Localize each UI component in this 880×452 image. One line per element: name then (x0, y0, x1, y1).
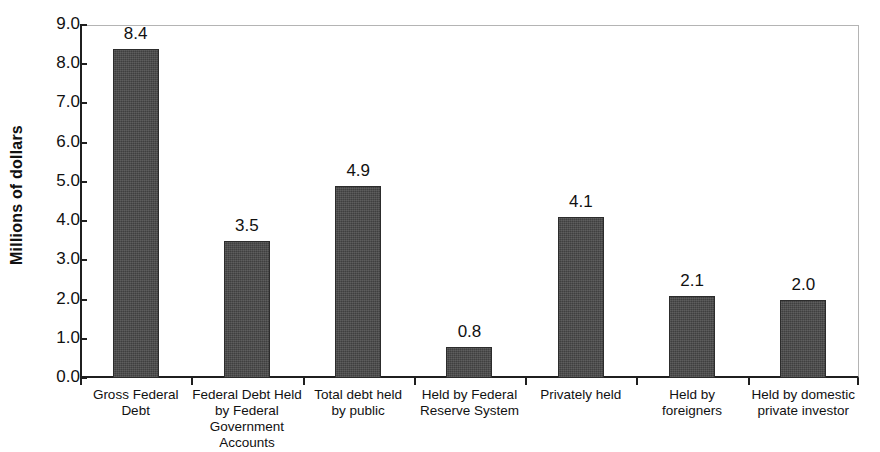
x-axis-tick-mark (191, 378, 193, 385)
x-axis-labels: Gross FederalDebtFederal Debt Heldby Fed… (80, 387, 859, 452)
bar-value-label: 2.0 (792, 275, 816, 295)
bar-chart: Millions of dollars 9.08.07.06.05.04.03.… (0, 0, 880, 452)
bar-value-label: 2.1 (680, 271, 704, 291)
x-axis-category-label: Held byforeigners (636, 387, 747, 419)
bar[interactable] (446, 347, 492, 378)
bar-value-label: 0.8 (458, 322, 482, 342)
x-axis-category-label: Gross FederalDebt (80, 387, 191, 419)
bar-slot: 0.8 (414, 25, 525, 378)
bar-slot: 8.4 (80, 25, 191, 378)
x-axis-tick-mark (748, 378, 750, 385)
y-axis-title-label: Millions of dollars (8, 125, 26, 265)
y-axis-tick-label: 7.0 (56, 92, 80, 112)
x-axis-tick-mark (414, 378, 416, 385)
bar[interactable] (335, 186, 381, 378)
x-axis-category-label-line: Federal Debt Held (191, 387, 302, 403)
bar[interactable] (558, 217, 604, 378)
bar-value-label: 4.1 (569, 192, 593, 212)
x-axis-category-label-line: Held by domestic (748, 387, 859, 403)
x-axis-tick-mark (303, 378, 305, 385)
x-axis-category-label-line: Government (191, 419, 302, 435)
y-axis-tick-label: 0.0 (56, 367, 80, 387)
bar-slot: 2.1 (636, 25, 747, 378)
y-axis-title: Millions of dollars (0, 0, 34, 390)
bar-value-label: 3.5 (235, 216, 259, 236)
x-axis-tick-mark (857, 378, 859, 385)
x-axis-category-label: Federal Debt Heldby FederalGovernmentAcc… (191, 387, 302, 451)
bars-layer: 8.43.54.90.84.12.12.0 (80, 25, 859, 378)
y-axis-tick-label: 4.0 (56, 210, 80, 230)
bar[interactable] (224, 241, 270, 378)
bar[interactable] (780, 300, 826, 378)
x-axis-category-label-line: Held by (636, 387, 747, 403)
x-axis-category-label-line: foreigners (636, 403, 747, 419)
y-axis-tick-label: 5.0 (56, 171, 80, 191)
x-axis-category-label-line: Reserve System (414, 403, 525, 419)
bar[interactable] (669, 296, 715, 378)
x-axis-category-label-line: Accounts (191, 435, 302, 451)
bar-slot: 4.9 (303, 25, 414, 378)
y-axis-tick-label: 1.0 (56, 328, 80, 348)
bar[interactable] (113, 49, 159, 378)
x-axis-category-label-line: Gross Federal (80, 387, 191, 403)
bar-slot: 3.5 (191, 25, 302, 378)
x-axis-category-label-line: by Federal (191, 403, 302, 419)
bar-slot: 2.0 (748, 25, 859, 378)
x-axis-tick-mark (636, 378, 638, 385)
bar-slot: 4.1 (525, 25, 636, 378)
x-axis-ticks (80, 378, 859, 386)
x-axis-category-label: Total debt heldby public (303, 387, 414, 419)
bar-value-label: 4.9 (346, 161, 370, 181)
y-axis-tick-label: 9.0 (56, 14, 80, 34)
x-axis-tick-mark (80, 378, 82, 385)
x-axis-category-label-line: Privately held (525, 387, 636, 403)
y-axis-tick-label: 8.0 (56, 53, 80, 73)
x-axis-category-label-line: Debt (80, 403, 191, 419)
x-axis-category-label: Held by FederalReserve System (414, 387, 525, 419)
x-axis-category-label-line: Held by Federal (414, 387, 525, 403)
y-axis-tick-label: 2.0 (56, 289, 80, 309)
x-axis-category-label: Privately held (525, 387, 636, 403)
x-axis-category-label-line: private investor (748, 403, 859, 419)
x-axis-category-label: Held by domesticprivate investor (748, 387, 859, 419)
x-axis-tick-mark (525, 378, 527, 385)
x-axis-category-label-line: Total debt held (303, 387, 414, 403)
y-axis-tick-label: 6.0 (56, 132, 80, 152)
y-axis-tick-label: 3.0 (56, 249, 80, 269)
bar-value-label: 8.4 (124, 24, 148, 44)
x-axis-category-label-line: by public (303, 403, 414, 419)
